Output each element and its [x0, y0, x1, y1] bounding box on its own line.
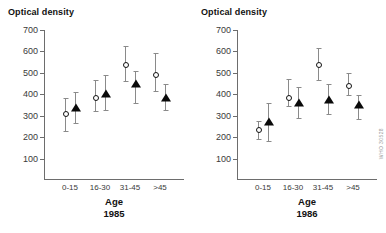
y-tick — [40, 116, 44, 117]
error-bar-cap — [346, 95, 351, 96]
y-axis-line — [237, 30, 238, 180]
x-tick-label: 16-30 — [283, 183, 303, 192]
data-point-filled-triangle — [101, 90, 111, 98]
y-tick — [40, 73, 44, 74]
source-credit: WHO 30528 — [378, 128, 384, 159]
error-bar-cap — [326, 84, 331, 85]
x-tick-label: 31-45 — [120, 183, 140, 192]
y-tick-label: 300 — [0, 111, 38, 121]
data-point-filled-triangle — [354, 101, 364, 109]
y-tick — [233, 30, 237, 31]
panel-year-label: 1985 — [44, 208, 184, 219]
y-tick-label: 200 — [191, 132, 231, 142]
y-tick — [40, 159, 44, 160]
error-bar-cap — [133, 103, 138, 104]
error-bar-cap — [316, 80, 321, 81]
panel-1986: Optical density 1002003004005006007000-1… — [193, 0, 386, 233]
data-point-open-circle — [316, 62, 322, 68]
data-point-open-circle — [123, 62, 129, 68]
plot-area-1986: 1002003004005006007000-1516-3031-45>45 — [237, 30, 377, 180]
error-bar-cap — [153, 53, 158, 54]
y-tick-label: 400 — [191, 89, 231, 99]
panel-1985: Optical density 1002003004005006007000-1… — [0, 0, 193, 233]
panel-year-label: 1986 — [237, 208, 377, 219]
data-point-filled-triangle — [161, 93, 171, 101]
error-bar-cap — [63, 98, 68, 99]
figure-container: Optical density 1002003004005006007000-1… — [0, 0, 386, 233]
error-bar-cap — [63, 131, 68, 132]
error-bar-cap — [93, 111, 98, 112]
error-bar-cap — [73, 92, 78, 93]
y-tick-label: 400 — [0, 89, 38, 99]
y-tick — [40, 30, 44, 31]
y-tick-label: 500 — [0, 68, 38, 78]
error-bar-cap — [356, 119, 361, 120]
error-bar-cap — [286, 106, 291, 107]
error-bar — [288, 79, 289, 106]
x-tick-label: 0-15 — [255, 183, 271, 192]
y-tick — [233, 73, 237, 74]
y-tick — [233, 94, 237, 95]
y-tick — [233, 116, 237, 117]
error-bar-cap — [163, 84, 168, 85]
data-point-filled-triangle — [264, 118, 274, 126]
error-bar-cap — [256, 139, 261, 140]
y-tick — [40, 51, 44, 52]
y-tick-label: 700 — [191, 25, 231, 35]
error-bar-cap — [103, 75, 108, 76]
y-tick — [233, 137, 237, 138]
y-tick-label: 100 — [0, 154, 38, 164]
y-axis-title: Optical density — [8, 7, 74, 17]
x-tick-label: 0-15 — [62, 183, 78, 192]
y-tick-label: 300 — [191, 111, 231, 121]
y-tick — [40, 137, 44, 138]
x-axis-title: Age — [237, 196, 377, 207]
x-tick-label: >45 — [346, 183, 360, 192]
error-bar-cap — [163, 110, 168, 111]
y-tick — [233, 51, 237, 52]
error-bar-cap — [286, 79, 291, 80]
error-bar-cap — [266, 103, 271, 104]
y-tick-label: 500 — [191, 68, 231, 78]
x-tick-label: >45 — [153, 183, 167, 192]
error-bar-cap — [123, 46, 128, 47]
error-bar-cap — [153, 91, 158, 92]
data-point-filled-triangle — [294, 99, 304, 107]
y-tick — [233, 159, 237, 160]
error-bar-cap — [93, 80, 98, 81]
error-bar-cap — [326, 114, 331, 115]
error-bar-cap — [316, 48, 321, 49]
y-tick-label: 700 — [0, 25, 38, 35]
data-point-filled-triangle — [324, 96, 334, 104]
error-bar-cap — [296, 118, 301, 119]
error-bar-cap — [296, 87, 301, 88]
data-point-filled-triangle — [71, 104, 81, 112]
x-axis-line — [44, 179, 184, 180]
y-axis-title: Optical density — [201, 7, 267, 17]
data-point-open-circle — [346, 83, 352, 89]
error-bar-cap — [123, 81, 128, 82]
x-tick-label: 16-30 — [90, 183, 110, 192]
y-tick-label: 600 — [191, 46, 231, 56]
error-bar-cap — [256, 121, 261, 122]
data-point-open-circle — [63, 111, 69, 117]
y-tick — [40, 94, 44, 95]
error-bar-cap — [103, 110, 108, 111]
error-bar-cap — [133, 71, 138, 72]
error-bar-cap — [356, 95, 361, 96]
error-bar-cap — [73, 123, 78, 124]
x-axis-title: Age — [44, 196, 184, 207]
error-bar-cap — [266, 141, 271, 142]
data-point-open-circle — [153, 72, 159, 78]
x-tick-label: 31-45 — [313, 183, 333, 192]
data-point-open-circle — [256, 127, 262, 133]
data-point-open-circle — [286, 95, 292, 101]
x-axis-line — [237, 179, 377, 180]
plot-area-1985: 1002003004005006007000-1516-3031-45>45 — [44, 30, 184, 180]
error-bar-cap — [346, 73, 351, 74]
y-tick-label: 200 — [0, 132, 38, 142]
data-point-open-circle — [93, 95, 99, 101]
data-point-filled-triangle — [131, 79, 141, 87]
y-tick-label: 100 — [191, 154, 231, 164]
y-tick-label: 600 — [0, 46, 38, 56]
